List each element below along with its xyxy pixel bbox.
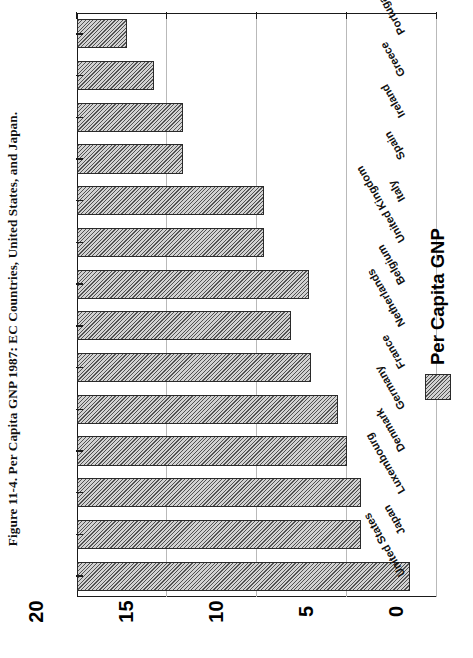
- bar-japan: [77, 520, 361, 549]
- bar-germany: [77, 395, 338, 424]
- bar-greece: [77, 61, 154, 90]
- category-tick-belgium: [76, 283, 83, 284]
- gridline-10: [256, 13, 257, 597]
- gridline-5: [166, 13, 167, 597]
- bar-netherlands: [77, 311, 291, 340]
- gridline-15: [346, 13, 347, 597]
- bar-france: [77, 353, 311, 382]
- value-tick-20: [436, 12, 437, 19]
- value-tick-5: [166, 12, 167, 19]
- bar-united-states: [77, 562, 410, 591]
- chart-canvas: [0, 0, 473, 658]
- category-tick-spain: [76, 158, 83, 159]
- category-tick-greece: [76, 75, 83, 76]
- bar-italy: [77, 186, 264, 215]
- legend-swatch-icon: [425, 374, 451, 400]
- value-tick-label-10: 10: [205, 590, 228, 634]
- value-tick-10: [256, 12, 257, 19]
- category-tick-luxembourg: [76, 492, 83, 493]
- bar-united-kingdom: [77, 228, 264, 257]
- bar-portugal: [77, 19, 127, 48]
- value-axis-title: Thousands of Dollars: [92, 628, 116, 658]
- chart-legend: Per Capita GNP: [418, 230, 458, 400]
- value-tick-label-0: 0: [385, 590, 408, 634]
- category-tick-france: [76, 367, 83, 368]
- value-tick-label-15: 15: [115, 590, 138, 634]
- category-tick-germany: [76, 409, 83, 410]
- value-tick-15: [346, 12, 347, 19]
- legend-label: Per Capita GNP: [427, 228, 449, 365]
- value-tick-label-20: 20: [25, 590, 48, 634]
- category-tick-united-kingdom: [76, 242, 83, 243]
- value-tick-0: [76, 12, 77, 19]
- bar-ireland: [77, 103, 183, 132]
- bar-luxembourg: [77, 478, 361, 507]
- category-tick-ireland: [76, 117, 83, 118]
- bar-spain: [77, 144, 183, 173]
- category-tick-italy: [76, 200, 83, 201]
- category-tick-portugal: [76, 33, 83, 34]
- value-tick-label-5: 5: [295, 590, 318, 634]
- category-tick-denmark: [76, 450, 83, 451]
- category-tick-netherlands: [76, 325, 83, 326]
- bar-denmark: [77, 436, 347, 465]
- category-tick-japan: [76, 534, 83, 535]
- category-tick-united-states: [76, 575, 83, 576]
- bar-belgium: [77, 270, 309, 299]
